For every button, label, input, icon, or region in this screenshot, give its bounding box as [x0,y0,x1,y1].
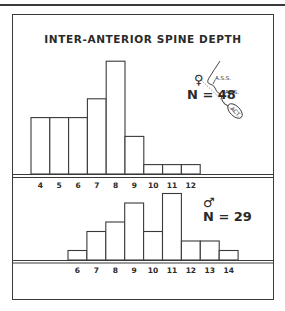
x-tick-label: 5 [57,181,62,190]
x-tick-label: 8 [113,266,118,275]
act-label: ACT. [229,105,242,118]
histogram-bar [125,136,144,174]
histogram-bar [68,251,87,261]
x-tick-label: 13 [205,266,215,275]
histogram-bar [181,165,200,174]
histogram-bar [181,241,200,260]
female-n-label: N = 48 [187,87,236,102]
x-tick-label: 7 [94,181,99,190]
histogram-bar [50,118,69,174]
x-tick-label: 8 [113,181,118,190]
x-tick-label: 6 [75,181,80,190]
x-tick-label: 9 [132,266,137,275]
x-tick-label: 6 [75,266,80,275]
histogram-bar [125,203,144,260]
histogram-bar [69,118,88,174]
x-tick-label: 7 [94,266,99,275]
histogram-bar [106,61,125,174]
histogram-bar [87,232,106,261]
histogram-bar [31,118,50,174]
x-tick-label: 11 [167,266,177,275]
histogram-bar [163,165,182,174]
histogram-bar [219,251,238,261]
histogram-bar [200,241,219,260]
ass-label: A.S.S. [215,75,231,81]
histogram-bar [106,222,125,260]
x-tick-label: 14 [223,266,233,275]
histogram-bar [144,232,163,261]
x-tick-label: 12 [186,181,196,190]
x-tick-label: 11 [167,181,177,190]
x-tick-label: 12 [186,266,196,275]
histogram-bar [87,99,106,174]
histogram-canvas: 456789101112 67891011121314 A.S.S. A.I.S… [0,0,285,311]
male-symbol-icon: ♂ [203,196,215,209]
histogram-bar [144,165,163,174]
x-tick-label: 9 [132,181,137,190]
histogram-bar [163,194,182,261]
female-bars: 456789101112 [31,61,200,190]
x-tick-label: 10 [148,181,158,190]
male-n-label: N = 29 [203,209,252,224]
female-symbol-icon: ♀ [194,73,204,86]
x-tick-label: 4 [38,181,43,190]
x-tick-label: 10 [148,266,158,275]
